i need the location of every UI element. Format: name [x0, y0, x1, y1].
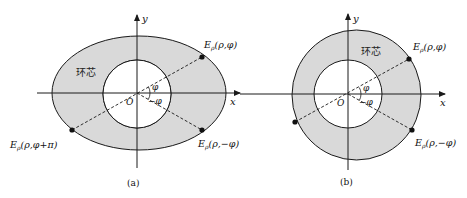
- region-label: 环芯: [361, 45, 381, 57]
- y-axis-label: y: [352, 13, 359, 24]
- panel-a: 环芯 x y O φ −φ Eρ(ρ,φ) Eρ(ρ,−φ) Eρ(ρ,φ+π)…: [9, 13, 240, 188]
- angle-label-negative: −φ: [359, 97, 374, 107]
- point-label-upper-right: Eρ(ρ,φ): [203, 39, 237, 52]
- panel-b: 环芯 x y O φ −φ Eρ(ρ,φ) Eρ(ρ,−φ) (b): [240, 13, 456, 187]
- caption-b: (b): [340, 177, 353, 187]
- point-label-lower-right: Eρ(ρ,−φ): [414, 137, 456, 150]
- origin-label: O: [126, 97, 134, 107]
- point-e-rho-neg-phi: [199, 127, 204, 132]
- ring-core-diagram: 环芯 x y O φ −φ Eρ(ρ,φ) Eρ(ρ,−φ) Eρ(ρ,φ+π)…: [0, 0, 467, 198]
- x-axis-label: x: [230, 96, 236, 107]
- point-e-rho-phi: [199, 54, 204, 59]
- point-label-upper-right: Eρ(ρ,φ): [412, 41, 446, 54]
- y-axis-label: y: [141, 13, 148, 24]
- point-e-rho-phi: [406, 56, 411, 61]
- angle-label-negative: −φ: [148, 96, 163, 106]
- caption-a: (a): [127, 178, 139, 188]
- origin-label: O: [337, 98, 345, 108]
- point-e-rho-neg-phi: [409, 127, 414, 132]
- angle-label-positive: φ: [363, 83, 370, 93]
- point-e-rho-phi-plus-pi: [69, 127, 74, 132]
- point-label-lower-left: Eρ(ρ,φ+π): [9, 139, 58, 152]
- point-label-lower-right: Eρ(ρ,−φ): [197, 138, 239, 151]
- x-axis-label: x: [440, 97, 446, 108]
- angle-label-positive: φ: [152, 82, 159, 92]
- region-label: 环芯: [76, 66, 96, 78]
- point-lower-left: [292, 119, 297, 124]
